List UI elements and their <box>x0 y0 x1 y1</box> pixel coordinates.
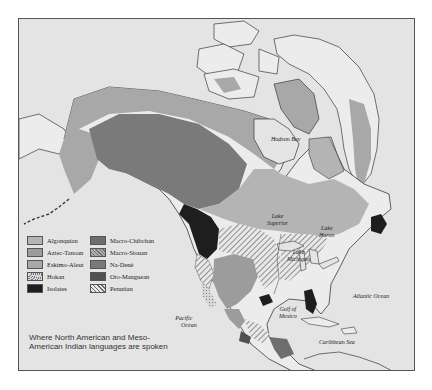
label-lake-superior: Lake Superior <box>267 213 288 227</box>
map-frame: Hudson Bay Lake Superior Lake Huron Lake… <box>18 18 415 371</box>
label-caribbean-sea: Caribbean Sea <box>319 339 355 346</box>
legend-item-hokan: Hokan <box>27 271 64 281</box>
cuba <box>301 317 339 327</box>
swatch-na-dene <box>90 260 106 269</box>
legend-item-eskimo-aleut: Eskimo-Aleut <box>27 259 83 269</box>
label-pacific-ocean: Pacific Ocean <box>171 315 197 329</box>
label-hudson-bay: Hudson Bay <box>271 136 301 143</box>
legend-item-oto-manguean: Oto-Manguean <box>90 271 149 281</box>
swatch-penutian <box>90 284 106 293</box>
south-america-coast <box>304 352 394 371</box>
hispaniola <box>341 327 357 334</box>
label-lake-michigan: Lake Michigan <box>287 249 310 263</box>
legend-item-penutian: Penutian <box>90 283 133 293</box>
legend-item-algonquian: Algonquian <box>27 235 78 245</box>
swatch-macro-siouan <box>90 248 106 257</box>
map-caption: Where North American and Meso-American I… <box>29 333 169 351</box>
swatch-isolates <box>27 284 43 293</box>
label-lake-huron: Lake Huron <box>319 225 334 239</box>
legend-item-aztec-tanoan: Aztec-Tanoan <box>27 247 83 257</box>
arctic-island-1 <box>214 21 259 47</box>
swatch-macro-chibchan <box>90 236 106 245</box>
swatch-hokan <box>27 272 43 281</box>
label-atlantic-ocean: Atlantic Ocean <box>353 293 389 300</box>
region-isolates-newfoundland <box>371 214 387 234</box>
swatch-oto-manguean <box>90 272 106 281</box>
swatch-aztec-tanoan <box>27 248 43 257</box>
swatch-eskimo-aleut <box>27 260 43 269</box>
legend-item-na-dene: Na-Dené <box>90 259 133 269</box>
legend-item-macro-chibchan: Macro-Chibchan <box>90 235 154 245</box>
language-map <box>19 19 415 371</box>
arctic-island-3 <box>259 49 279 74</box>
swatch-algonquian <box>27 236 43 245</box>
legend-item-macro-siouan: Macro-Siouan <box>90 247 147 257</box>
legend-item-isolates: Isolates <box>27 283 67 293</box>
aleutian-islands <box>24 199 69 224</box>
label-gulf-of-mexico: Gulf of Mexico <box>279 306 297 320</box>
